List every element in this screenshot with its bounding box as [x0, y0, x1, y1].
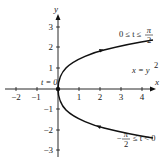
equation-text: x = y: [131, 65, 150, 75]
upper-range-text: 0 ≤ t ≤: [119, 29, 142, 39]
equation-annotation: x = y 2: [131, 60, 158, 75]
y-axis-arrow-icon: [56, 14, 61, 20]
origin-point: [56, 87, 60, 91]
lower-range-denominator: 2: [124, 139, 128, 149]
t-zero-label: t = 0: [41, 77, 58, 87]
y-axis-label: y: [53, 4, 58, 14]
x-axis: x −2 −1 1 2 3 4: [5, 77, 159, 102]
x-axis-arrow-icon: [150, 87, 156, 92]
direction-arrow-lower-icon: [96, 126, 101, 130]
x-tick-label: 3: [119, 92, 124, 102]
y-tick-label: 1: [49, 63, 54, 73]
lower-range-suffix: ≤ t < 0: [133, 133, 155, 143]
upper-range-denominator: 2: [147, 35, 151, 45]
y-tick-label: −1: [43, 104, 53, 114]
x-tick-label: 4: [140, 92, 145, 102]
x-tick-label: 1: [77, 92, 82, 102]
x-tick-label: 2: [98, 92, 103, 102]
y-tick-label: −2: [43, 125, 53, 135]
upper-range-annotation: 0 ≤ t ≤ π 2: [119, 25, 153, 45]
lower-range-pi: π: [124, 129, 129, 139]
equation-exponent: 2: [154, 60, 158, 70]
parametric-curve-plot: x −2 −1 1 2 3 4 y 3 2 1 −1 −2 −3: [0, 0, 161, 157]
y-tick-label: 3: [49, 22, 54, 32]
x-tick-label: −2: [11, 92, 21, 102]
curve-lower-branch: [58, 89, 153, 138]
x-tick-label: −1: [31, 92, 41, 102]
x-axis-label: x: [154, 77, 159, 87]
y-tick-label: −3: [43, 145, 53, 155]
lower-range-minus: −: [117, 133, 122, 143]
y-tick-label: 2: [49, 42, 54, 52]
upper-range-pi: π: [147, 25, 152, 35]
